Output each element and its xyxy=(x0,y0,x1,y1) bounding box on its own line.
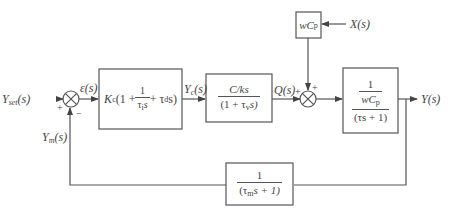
controller-output-label: Yc(s) xyxy=(184,83,207,97)
integral-fraction: 1 τis xyxy=(135,85,149,113)
junction1-plus-sign: + xyxy=(57,103,63,113)
valve-block: C/ks (1 + τvs) xyxy=(206,74,272,122)
junction2-plus-top-sign: + xyxy=(312,83,318,93)
junction1-minus-sign: − xyxy=(76,109,82,119)
sensor-block: 1 (τms + 1) xyxy=(226,163,293,205)
disturbance-label: X(s) xyxy=(350,18,370,30)
process-block: 1 wCp (τs + 1) xyxy=(343,68,398,133)
flow-label: Q(s) xyxy=(274,84,295,96)
error-label: ε(s) xyxy=(80,82,97,94)
disturbance-gain-block: wCp xyxy=(296,12,321,38)
measured-label: Ym(s) xyxy=(42,131,67,145)
setpoint-label: Yset(s) xyxy=(2,93,30,107)
output-label: Y(s) xyxy=(421,93,440,105)
controller-block: Kc(1 + 1 τis + τds) xyxy=(99,69,182,129)
junction2-plus-left-sign: + xyxy=(295,87,301,97)
